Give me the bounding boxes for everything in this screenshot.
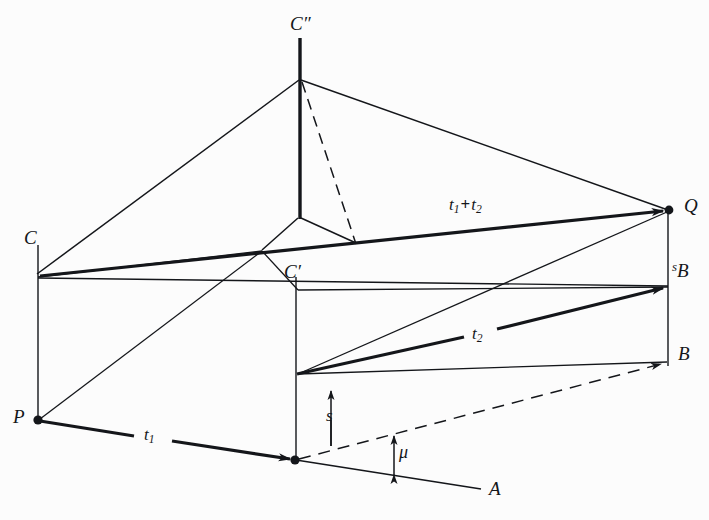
label-C-prime: C′ [284,262,301,281]
vector-t1-segment-a [40,421,134,436]
vector-t2-segment-b [497,288,663,329]
label-sum-sub-2: 2 [476,203,482,216]
diagram-figure: C″ C C′ Q P A B sB t1+t2 t2 t1 s μ [0,0,709,520]
label-C-doubleprime: C″ [290,14,311,33]
label-B: B [678,344,690,363]
label-sum-sub-1: 1 [454,203,460,216]
label-t1: t1 [144,426,155,446]
edge-cdd-to-c [37,80,299,274]
edge-apex-to-left [262,218,298,250]
label-sum-plus: + [460,195,472,214]
edge-c-to-sb [38,278,668,286]
dashed-edge-foot-to-b [299,364,661,459]
label-sB: sB [672,261,689,280]
label-P: P [13,407,25,426]
label-s: s [326,407,333,424]
vector-t1-segment-b [172,441,290,459]
edge-cdd-to-q [301,80,668,210]
edge-apex-to-right [301,218,356,243]
edge-b-to-t2-origin [298,362,667,374]
label-t2-sub: 2 [477,332,483,345]
axis-line-a [296,460,481,489]
point-dot-q [665,206,674,215]
label-C: C [24,228,37,247]
point-dot-foot [290,455,299,464]
label-t1-plus-t2: t1+t2 [449,196,482,216]
label-A: A [489,479,501,498]
label-t2: t2 [472,325,483,345]
label-mu: μ [399,443,408,461]
label-sB-base: B [677,260,689,281]
vector-t2-segment-a [297,337,464,374]
point-dot-p [33,415,42,424]
label-t1-sub: 1 [149,433,155,446]
vector-t1-plus-t2 [40,211,663,276]
edge-plane-bottom [298,287,668,290]
diagram-canvas [0,0,709,520]
label-Q: Q [684,196,698,215]
edge-p-to-plane-left [40,251,262,419]
dashed-edge-cdd-to-plane [302,82,356,244]
